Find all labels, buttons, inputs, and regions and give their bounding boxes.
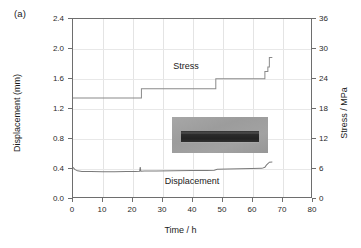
left-y-tick-label: 0.8 [38,134,64,143]
right-y-tick [312,78,316,79]
left-y-tick-label: 1.6 [38,74,64,83]
right-y-tick-label: 30 [319,44,328,53]
right-y-axis-title: Stress / MPa [339,63,349,163]
left-y-tick-label: 2.0 [38,44,64,53]
specimen-photo-inset [172,117,268,153]
x-tick [132,198,133,202]
x-tick-label: 30 [158,205,167,214]
right-y-tick [312,168,316,169]
inset-specimen-highlight [181,132,259,134]
x-tick [282,198,283,202]
right-y-tick-label: 24 [319,74,328,83]
x-tick [192,198,193,202]
inset-specimen-bar [181,131,259,142]
left-y-tick [68,138,72,139]
left-y-axis-title: Displacement (mm) [12,63,22,163]
left-y-tick [68,108,72,109]
right-y-tick [312,48,316,49]
left-y-tick [68,198,72,199]
panel-label: (a) [14,8,26,19]
x-tick-label: 20 [128,205,137,214]
x-tick-label: 60 [248,205,257,214]
x-tick-label: 40 [188,205,197,214]
x-tick-label: 80 [308,205,317,214]
chart-figure: (a) 01020304050607080 0.00.40.81.21.62.0… [0,0,361,248]
x-tick [72,198,73,202]
series-displacement [73,162,272,172]
left-y-tick [68,48,72,49]
right-y-tick [312,138,316,139]
right-y-tick [312,198,316,199]
left-y-tick [68,18,72,19]
plot-area [72,18,312,198]
right-y-tick-label: 0 [319,194,323,203]
left-y-tick [68,168,72,169]
x-tick-label: 70 [278,205,287,214]
right-y-tick-label: 36 [319,14,328,23]
left-y-tick [68,78,72,79]
left-y-tick-label: 1.2 [38,104,64,113]
right-y-tick-label: 12 [319,134,328,143]
right-y-tick [312,18,316,19]
x-tick [252,198,253,202]
x-tick-label: 0 [70,205,74,214]
series-annotation-displacement: Displacement [165,176,220,186]
x-tick [102,198,103,202]
x-axis-title: Time / h [0,225,361,235]
right-y-tick-label: 18 [319,104,328,113]
right-y-tick-label: 6 [319,164,323,173]
x-tick-label: 50 [218,205,227,214]
x-tick [162,198,163,202]
left-y-tick-label: 2.4 [38,14,64,23]
x-tick [222,198,223,202]
series-annotation-stress: Stress [173,61,199,71]
x-tick-label: 10 [98,205,107,214]
data-curves [73,19,311,197]
right-y-tick [312,108,316,109]
left-y-tick-label: 0.4 [38,164,64,173]
left-y-tick-label: 0.0 [38,194,64,203]
